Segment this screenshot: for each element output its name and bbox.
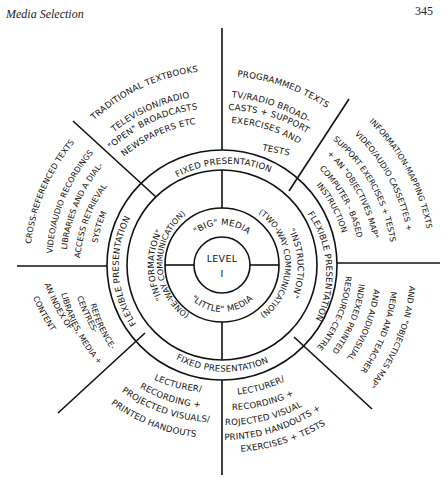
segment-right-upper: INFORMATION-MAPPING TEXTS VIDEO/AUDIO CA… <box>315 117 434 243</box>
little-media-label: "LITTLE" MEDIA <box>189 293 254 314</box>
big-media-label: "BIG" MEDIA <box>191 217 252 236</box>
center-label-level: LEVEL <box>207 253 238 264</box>
segment-left-lower: REFERENCE- CENTRES- LIBRARIES, MEDIA + A… <box>31 282 117 367</box>
segment-left-upper: CROSS-REFERENCED TEXTS VIDEO/AUDIO RECOR… <box>24 138 109 259</box>
center-circle <box>194 237 250 293</box>
svg-text:"LITTLE" MEDIA: "LITTLE" MEDIA <box>189 293 254 314</box>
media-selection-diagram: LEVEL I "BIG" MEDIA "LITTLE" MEDIA "INFO… <box>0 0 443 485</box>
segment-bottom-left: LECTURER/ RECORDING + PROJECTED VISUALS/… <box>110 372 211 439</box>
center-label-numeral: I <box>220 268 223 279</box>
segment-top-right: PROGRAMMED TEXTS TV/RADIO BROAD- CASTS +… <box>228 69 331 158</box>
segment-top-left: TRADITIONAL TEXTBOOKS TELEVISION/RADIO "… <box>88 64 198 159</box>
svg-text:SYSTEM: SYSTEM <box>91 210 109 244</box>
svg-text:"BIG" MEDIA: "BIG" MEDIA <box>191 217 252 236</box>
svg-text:TESTS: TESTS <box>261 142 291 158</box>
